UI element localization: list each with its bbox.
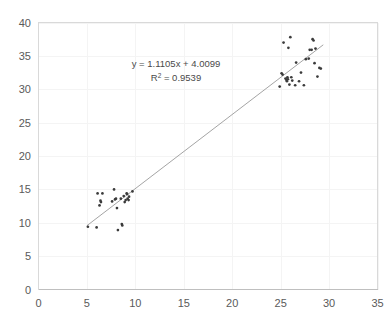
data-point [300, 71, 303, 74]
data-point [307, 57, 310, 60]
data-point [87, 225, 90, 228]
data-point [289, 36, 292, 39]
data-point [113, 188, 116, 191]
y-tick-label: 10 [19, 217, 31, 229]
y-axis-tick-labels: 0510152025303540 [19, 17, 31, 296]
x-tick-label: 20 [226, 297, 238, 309]
r-squared-label: R2 = 0.9539 [151, 72, 201, 84]
x-axis-tick-labels: 05101520253035 [35, 297, 383, 309]
data-point [319, 67, 322, 70]
data-point [291, 79, 294, 82]
data-point [96, 192, 99, 195]
y-tick-label: 35 [19, 50, 31, 62]
data-point [117, 229, 120, 232]
r-squared-value: = 0.9539 [161, 72, 201, 83]
data-point [101, 192, 104, 195]
x-tick-label: 5 [84, 297, 90, 309]
data-point [314, 47, 317, 50]
data-point [290, 76, 293, 79]
x-tick-label: 35 [371, 297, 383, 309]
trendline-equation-label: y = 1.1105x + 4.0099 [132, 58, 221, 69]
data-point [119, 197, 122, 200]
trendline [87, 45, 323, 226]
data-point [316, 75, 319, 78]
x-tick-label: 10 [129, 297, 141, 309]
data-point [121, 224, 124, 227]
data-point [128, 195, 131, 198]
data-point [282, 41, 285, 44]
data-point [312, 39, 315, 42]
data-point [95, 226, 98, 229]
data-point [98, 204, 101, 207]
data-point [288, 83, 291, 86]
x-tick-label: 25 [275, 297, 287, 309]
data-point [298, 80, 301, 83]
data-point [111, 200, 114, 203]
x-tick-label: 0 [35, 297, 41, 309]
y-tick-label: 0 [25, 284, 31, 296]
data-point [281, 73, 284, 76]
y-tick-label: 40 [19, 17, 31, 29]
data-point [294, 84, 297, 87]
data-point [313, 62, 316, 65]
y-tick-label: 30 [19, 83, 31, 95]
data-point [131, 190, 134, 193]
scatter-plot: 0510152025303540 05101520253035 y = 1.11… [0, 0, 392, 322]
data-point [100, 201, 103, 204]
data-point [122, 195, 125, 198]
data-point [310, 49, 313, 52]
data-point [278, 85, 281, 88]
x-tick-label: 15 [178, 297, 190, 309]
data-point [303, 84, 306, 87]
chart-container: 0510152025303540 05101520253035 y = 1.11… [0, 0, 392, 322]
data-point [304, 58, 307, 61]
data-point [127, 199, 130, 202]
x-tick-label: 30 [323, 297, 335, 309]
y-tick-label: 5 [25, 250, 31, 262]
y-tick-label: 25 [19, 117, 31, 129]
y-tick-label: 15 [19, 183, 31, 195]
data-point [287, 78, 290, 81]
data-point [295, 61, 298, 64]
data-point [116, 207, 119, 210]
data-point [115, 197, 118, 200]
data-point [287, 47, 290, 50]
y-tick-label: 20 [19, 150, 31, 162]
data-point [126, 193, 129, 196]
